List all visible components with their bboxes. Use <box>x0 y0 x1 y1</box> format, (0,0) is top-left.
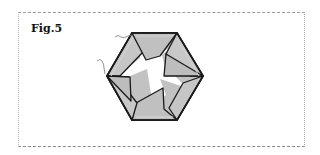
leader-line-left <box>97 60 105 75</box>
hexagon-diagram <box>0 0 320 155</box>
